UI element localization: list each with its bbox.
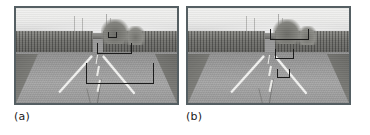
road-scene-photo-b [188, 8, 349, 103]
detection-bracket-mid [97, 43, 132, 53]
detection-bracket-near [86, 63, 154, 84]
panel-b [186, 6, 351, 105]
panel-caption-b: (b) [186, 110, 202, 123]
panel-a [14, 6, 179, 105]
figure-two-panel-road-detection: (a) (b) [0, 0, 370, 135]
road-scene-photo-a [16, 8, 177, 103]
detection-bracket-near [277, 69, 290, 79]
photo-frame-b [186, 6, 351, 105]
photo-frame-a [14, 6, 179, 105]
detection-bracket-mid [275, 49, 294, 59]
panel-caption-a: (a) [14, 110, 30, 123]
detection-bracket-far [270, 29, 309, 40]
detection-bracket-far [108, 32, 118, 39]
